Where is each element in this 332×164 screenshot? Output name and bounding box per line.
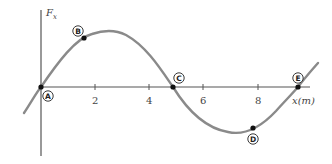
- point-b: [81, 35, 86, 40]
- tick-label-6: 6: [200, 95, 206, 106]
- label-d: D: [248, 134, 258, 144]
- force-position-diagram: Fx 2 4 6 8 x(m) A B C D E: [0, 0, 332, 164]
- label-e: E: [293, 73, 303, 83]
- label-c: C: [174, 73, 184, 83]
- label-b: B: [73, 26, 83, 36]
- svg-text:B: B: [75, 27, 81, 36]
- point-e: [295, 84, 300, 89]
- force-curve: [24, 31, 318, 133]
- svg-text:A: A: [45, 92, 51, 101]
- label-a: A: [43, 91, 53, 101]
- y-axis-label: Fx: [45, 7, 57, 21]
- tick-label-2: 2: [92, 95, 98, 106]
- point-d: [250, 125, 255, 130]
- svg-text:D: D: [250, 135, 256, 144]
- point-c: [170, 84, 175, 89]
- tick-label-4: 4: [146, 95, 152, 106]
- svg-text:E: E: [295, 74, 300, 83]
- x-axis-label: x(m): [292, 95, 315, 106]
- tick-label-8: 8: [255, 95, 261, 106]
- point-a: [38, 84, 43, 89]
- svg-text:C: C: [176, 74, 182, 83]
